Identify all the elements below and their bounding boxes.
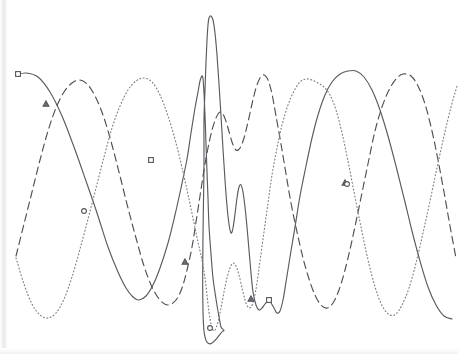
data-series-line-1 bbox=[16, 16, 452, 344]
data-series-line-2 bbox=[16, 74, 456, 308]
data-point-marker-1-1 bbox=[16, 72, 21, 77]
data-point-marker-2-3 bbox=[248, 296, 254, 301]
line-plot-canvas bbox=[0, 0, 458, 354]
data-point-marker-1-3 bbox=[267, 298, 272, 303]
chart-figure bbox=[0, 0, 458, 354]
data-point-marker-1-2 bbox=[149, 158, 154, 163]
data-point-marker-3-2 bbox=[208, 326, 213, 331]
data-point-marker-2-1 bbox=[43, 101, 49, 106]
data-point-marker-3-1 bbox=[82, 209, 87, 214]
data-point-marker-3-3 bbox=[345, 182, 350, 187]
series-layer bbox=[16, 16, 457, 344]
data-point-marker-2-2 bbox=[182, 259, 188, 264]
